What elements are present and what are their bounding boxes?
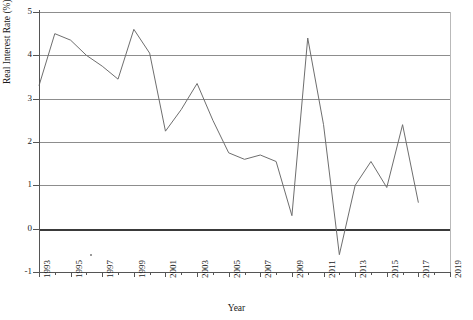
y-axis-tick-label: 3 (10, 94, 32, 103)
y-axis-tick (33, 142, 39, 143)
y-axis-tick-label: -1 (10, 267, 32, 276)
x-axis-tick (213, 272, 214, 275)
x-axis-tick-label: 2001 (169, 260, 178, 278)
x-axis-tick (55, 272, 56, 275)
x-axis-tick (450, 272, 451, 277)
x-axis-tick (355, 272, 356, 277)
x-axis-tick (403, 272, 404, 275)
x-axis-tick (150, 272, 151, 275)
x-axis-tick (308, 272, 309, 275)
x-axis-tick (324, 272, 325, 277)
x-axis-tick-label: 1993 (43, 260, 52, 278)
y-axis-tick-label: 5 (10, 7, 32, 16)
x-axis-tick-label: 2011 (328, 260, 337, 278)
y-axis-tick-label: 0 (10, 224, 32, 233)
y-axis-tick (33, 55, 39, 56)
x-axis-tick-label: 2005 (233, 260, 242, 278)
x-axis-tick (39, 272, 40, 277)
y-axis-tick (33, 229, 39, 230)
x-axis-tick (245, 272, 246, 275)
x-axis-tick (371, 272, 372, 275)
x-axis-tick (181, 272, 182, 275)
x-axis-tick-label: 2009 (296, 260, 305, 278)
page-artifact-speck (90, 254, 92, 256)
plot-area (39, 12, 450, 272)
x-axis-tick (229, 272, 230, 277)
x-axis-tick (276, 272, 277, 275)
x-axis-tick (434, 272, 435, 275)
x-axis-title: Year (0, 303, 473, 313)
x-axis-tick (387, 272, 388, 277)
x-axis-tick (418, 272, 419, 277)
x-axis-tick (339, 272, 340, 275)
x-axis-tick-label: 2019 (454, 260, 463, 278)
x-axis-tick (102, 272, 103, 277)
x-axis-tick-label: 2003 (201, 260, 210, 278)
y-axis-tick (33, 185, 39, 186)
x-axis-tick (197, 272, 198, 277)
x-axis-tick-label: 1999 (138, 260, 147, 278)
x-axis-tick (260, 272, 261, 277)
x-axis-tick (134, 272, 135, 277)
y-axis-line (39, 10, 40, 274)
y-axis-tick (33, 99, 39, 100)
x-axis-tick (292, 272, 293, 277)
x-axis-tick (118, 272, 119, 275)
series-line (39, 12, 450, 272)
x-axis-tick (71, 272, 72, 277)
x-axis-tick (86, 272, 87, 275)
x-axis-tick-label: 1995 (75, 260, 84, 278)
y-axis-tick-label: 2 (10, 137, 32, 146)
y-axis-tick-label: 1 (10, 180, 32, 189)
line-chart: Real Interest Rate (%) -1012345 19931995… (0, 0, 473, 320)
y-axis-tick (33, 12, 39, 13)
x-axis-tick-label: 1997 (106, 260, 115, 278)
x-axis-tick-label: 2013 (359, 260, 368, 278)
x-axis-tick-label: 2015 (391, 260, 400, 278)
x-axis-tick-label: 2017 (422, 260, 431, 278)
x-axis-tick-label: 2007 (264, 260, 273, 278)
x-axis-tick (165, 272, 166, 277)
y-axis-tick-label: 4 (10, 50, 32, 59)
